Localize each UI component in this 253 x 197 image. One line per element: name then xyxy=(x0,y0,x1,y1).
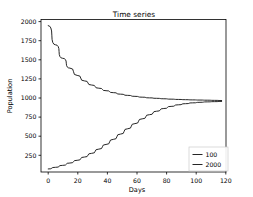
y-tick-label: 250 xyxy=(25,152,37,159)
y-tick-label: 1750 xyxy=(21,37,37,44)
chart-legend[interactable]: 100 2000 xyxy=(189,147,228,171)
x-tick-label: 0 xyxy=(46,177,50,184)
y-tick-label: 1250 xyxy=(21,75,37,82)
y-tick-label: 2000 xyxy=(21,18,37,25)
chart-figure: Time series 250 500 750 1000 1250 1500 1… xyxy=(0,0,253,197)
x-tick-label: 40 xyxy=(103,177,111,184)
y-tick-label: 1000 xyxy=(21,94,37,101)
x-tick-label: 120 xyxy=(220,177,232,184)
legend-label-2000: 2000 xyxy=(206,161,222,168)
y-tick-label: 500 xyxy=(25,132,37,139)
x-tick-label: 60 xyxy=(133,177,141,184)
chart-title: Time series xyxy=(112,10,155,19)
x-tick-label: 80 xyxy=(163,177,171,184)
x-tick-label: 20 xyxy=(74,177,82,184)
y-tick-label: 1500 xyxy=(21,56,37,63)
legend-label-100: 100 xyxy=(206,151,218,158)
y-tick-label: 750 xyxy=(25,113,37,120)
x-tick-label: 100 xyxy=(190,177,202,184)
y-axis-title: Population xyxy=(6,79,14,114)
x-axis-title: Days xyxy=(129,186,146,194)
time-series-line-chart: Time series 250 500 750 1000 1250 1500 1… xyxy=(0,0,253,197)
